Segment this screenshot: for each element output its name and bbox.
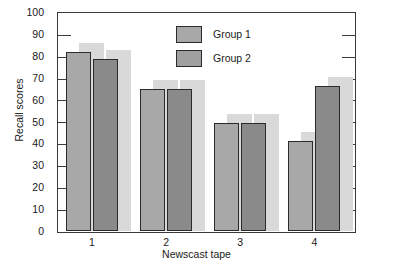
legend-swatch-group-1 [176, 26, 202, 43]
bar-group-2-tape-2 [167, 89, 192, 231]
y-tick-label: 40 [4, 137, 44, 149]
y-tick-label: 30 [4, 159, 44, 171]
legend-item: Group 1 [176, 22, 251, 46]
legend-swatch-group-2 [176, 50, 202, 67]
x-axis-title: Newscast tape [34, 248, 359, 260]
legend-item: Group 2 [176, 46, 251, 70]
y-tick-label: 90 [4, 28, 44, 40]
y-tick-label: 10 [4, 203, 44, 215]
y-tick-label: 0 [4, 225, 44, 237]
y-tick-right [342, 35, 355, 36]
legend: Group 1 Group 2 [176, 22, 251, 70]
y-tick-label: 20 [4, 181, 44, 193]
x-tick-label: 1 [72, 236, 112, 248]
y-tick-label: 50 [4, 116, 44, 128]
y-tick-label: 60 [4, 94, 44, 106]
y-tick-label: 80 [4, 50, 44, 62]
x-tick-label: 3 [220, 236, 260, 248]
x-tick-label: 2 [146, 236, 186, 248]
bar-group-2-tape-4 [315, 86, 340, 231]
bar-group-1-tape-2 [140, 89, 165, 231]
plot-area: Group 1 Group 2 [57, 12, 356, 233]
bar-group-2-tape-1 [93, 59, 118, 232]
y-tick-label: 100 [4, 6, 44, 18]
chart-figure: Recall scores 0102030405060708090100 Gro… [0, 0, 405, 267]
legend-label-group-1: Group 1 [213, 28, 251, 40]
bar-group-1-tape-3 [214, 123, 239, 231]
legend-label-group-2: Group 2 [213, 52, 251, 64]
y-tick-left [58, 35, 71, 36]
bar-group-1-tape-4 [288, 141, 313, 232]
bar-group-2-tape-3 [241, 123, 266, 231]
y-tick-label: 70 [4, 72, 44, 84]
bar-group-1-tape-1 [66, 52, 91, 231]
y-tick-right [342, 57, 355, 58]
x-tick-label: 4 [294, 236, 334, 248]
